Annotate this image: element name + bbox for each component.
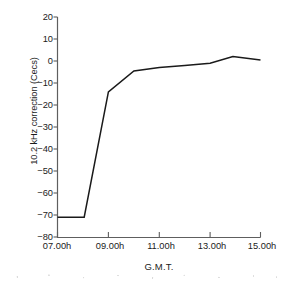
x-tick-label: 07.00h (43, 241, 71, 251)
scan-artifact-band (0, 272, 288, 281)
x-tick-label: 11.00h (147, 241, 175, 251)
x-axis-ticks (58, 232, 261, 238)
x-tick-label: 13.00h (198, 241, 226, 251)
chart-plot-area (0, 0, 288, 281)
x-axis-title: G.M.T. (57, 261, 261, 272)
chart-figure: 10.2 kHz correction (Cecs) 20 10 0 −10 −… (0, 0, 288, 281)
x-tick-label: 09.00h (96, 241, 124, 251)
x-axis-tick-labels: 07.00h 09.00h 11.00h 13.00h 15.00h (0, 241, 288, 261)
x-tick-label: 15.00h (248, 241, 276, 251)
data-line-10-2khz-correction (58, 57, 261, 218)
